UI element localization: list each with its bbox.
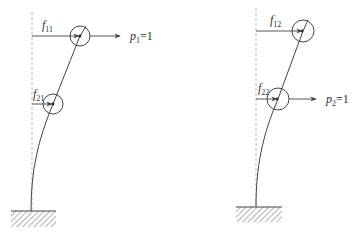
left-fixed-support: [11, 211, 56, 227]
right-f12-label: f12: [270, 13, 281, 29]
right-column-top-extension: [303, 20, 308, 31]
right-fixed-support: [236, 207, 282, 222]
left-f11-label: f11: [42, 18, 53, 34]
left-p1-label: p1=1: [129, 29, 153, 45]
right-deflected-column: [256, 31, 303, 207]
right-frame: f12 f22 p2=1: [236, 8, 349, 222]
right-f22-label: f22: [258, 81, 269, 97]
left-frame: f11 f21 p1=1: [11, 12, 153, 227]
left-deflected-column: [31, 36, 80, 211]
right-p2-label: p2=1: [325, 92, 349, 108]
left-f21-label: f21: [33, 87, 44, 103]
flexibility-diagram: f11 f21 p1=1 f12 f22 p2=1: [0, 0, 356, 235]
